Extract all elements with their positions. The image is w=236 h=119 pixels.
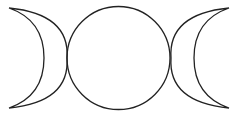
right-crescent-icon <box>171 8 229 108</box>
left-crescent-icon <box>9 8 67 108</box>
triple-moon-symbol <box>0 0 236 119</box>
triple-moon-icon <box>0 0 236 119</box>
full-moon-icon <box>67 7 170 110</box>
